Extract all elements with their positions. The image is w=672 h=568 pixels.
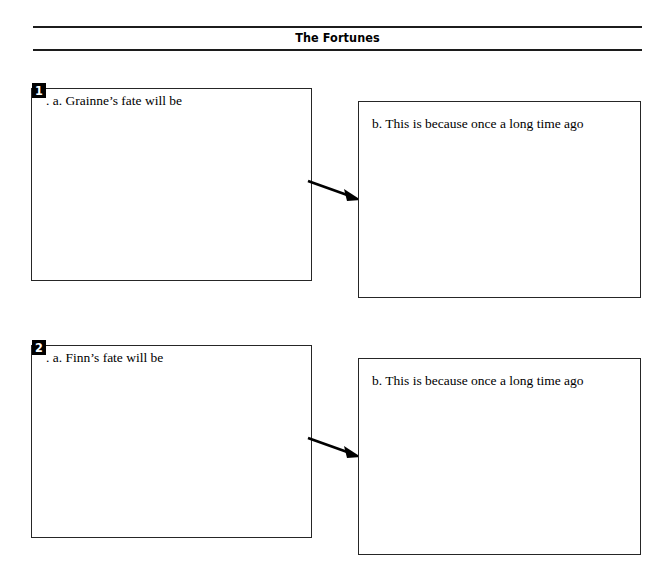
answer-box-1a[interactable]: . a. Grainne’s fate will be [31,88,312,281]
header-rule-top [33,26,642,28]
answer-box-2a[interactable]: . a. Finn’s fate will be [31,345,312,538]
page-title: The Fortunes [33,29,642,47]
exercise-number-badge-1: 1 [32,83,46,98]
answer-box-1b[interactable]: b. This is because once a long time ago [358,101,641,298]
header-rule-bottom [33,49,642,51]
prompt-2a: . a. Finn’s fate will be [46,350,163,366]
page-title-text: The Fortunes [289,30,386,45]
prompt-2b: b. This is because once a long time ago [372,373,584,389]
prompt-1b: b. This is because once a long time ago [372,116,584,132]
page-header: The Fortunes [33,24,642,54]
exercise-number-badge-2: 2 [32,340,46,355]
answer-box-2b[interactable]: b. This is because once a long time ago [358,358,641,555]
prompt-1a: . a. Grainne’s fate will be [46,93,182,109]
